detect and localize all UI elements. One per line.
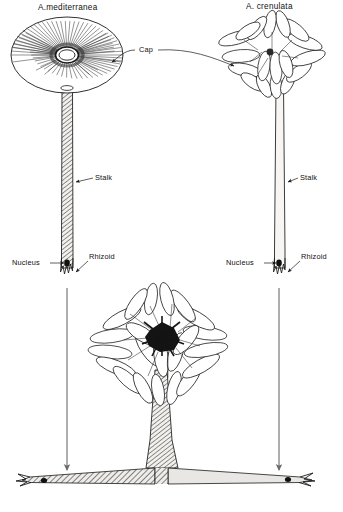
- acetabularia-grafting-figure: A.mediterranea A. crenulata: [0, 0, 343, 512]
- graft-right-nucleus: [285, 477, 291, 482]
- label-stalk-right: Stalk: [300, 173, 317, 182]
- label-stalk-left: Stalk: [95, 173, 112, 182]
- stalk-left: [61, 88, 74, 274]
- cap-left-disc: [11, 17, 123, 93]
- specimen-title-mediterranea: A.mediterranea: [38, 3, 98, 12]
- graft-left-nucleus: [41, 478, 47, 483]
- label-nucleus-left: Nucleus: [12, 258, 40, 267]
- specimen-title-crenulata: A. crenulata: [246, 2, 293, 11]
- label-rhizoid-right: Rhizoid: [301, 252, 327, 261]
- diagram-canvas: A.mediterranea A. crenulata: [0, 0, 343, 512]
- nucleus-left: [64, 260, 70, 267]
- label-cap: Cap: [139, 45, 153, 54]
- label-nucleus-right: Nucleus: [226, 258, 254, 267]
- nucleus-right: [276, 260, 282, 267]
- label-rhizoid-left: Rhizoid: [89, 252, 115, 261]
